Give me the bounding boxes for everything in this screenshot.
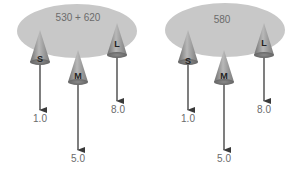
panel-left: 530 + 620 S 1.0 M 5.0 L 8.0 <box>17 4 137 164</box>
cone-m-value: 5.0 <box>71 153 85 164</box>
cone-s-value: 1.0 <box>181 113 195 124</box>
light-wavelength-label: 530 + 620 <box>56 12 101 23</box>
cone-m: M 5.0 <box>68 50 88 164</box>
cone-l-value: 8.0 <box>257 104 271 115</box>
cone-m-label: M <box>74 71 82 81</box>
cone-s-label: S <box>37 54 43 64</box>
cone-s-value: 1.0 <box>33 113 47 124</box>
cone-l-label: L <box>114 39 120 49</box>
cone-s-label: S <box>185 56 191 66</box>
cone-response-diagram: 530 + 620 S 1.0 M 5.0 L 8.0 580 <box>0 0 301 169</box>
cone-l-value: 8.0 <box>111 104 125 115</box>
cone-m-label: M <box>220 71 228 81</box>
cone-m-value: 5.0 <box>217 153 231 164</box>
panel-right: 580 S 1.0 M 5.0 L 8.0 <box>165 3 285 164</box>
light-wavelength-label: 580 <box>214 14 231 25</box>
cone-l-base <box>107 52 127 58</box>
cone-l-base <box>254 52 274 58</box>
cone-m: M 5.0 <box>214 50 234 164</box>
cone-l-label: L <box>261 38 267 48</box>
